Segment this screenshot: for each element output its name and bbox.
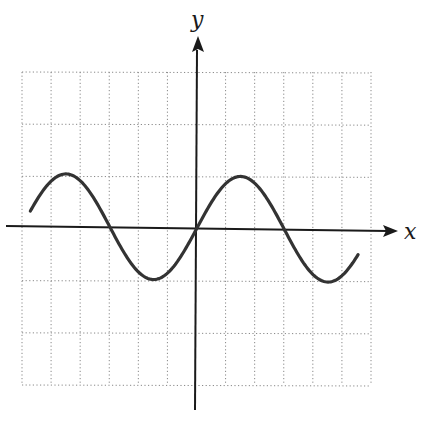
y-axis-label: y <box>190 7 204 32</box>
x-axis-label: x <box>404 219 417 244</box>
sine-graph: x y <box>0 0 428 421</box>
grid-horizontal-line <box>22 385 371 386</box>
axes: x y <box>6 7 417 410</box>
grid-horizontal-line <box>22 333 371 334</box>
y-axis-arrow-icon <box>192 36 204 52</box>
